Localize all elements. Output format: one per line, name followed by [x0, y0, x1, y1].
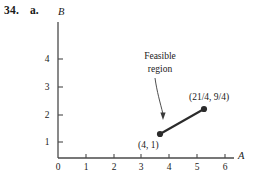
data-point-4-1	[157, 131, 163, 137]
annotation-arrow-shaft	[155, 78, 163, 114]
figure-container: 34. a. B A 0 1 2 3 4 5 6 1 2 3 4 Feasibl…	[0, 0, 260, 185]
annotation-arrow-head	[160, 113, 165, 120]
data-point-21over4-9over4	[201, 106, 207, 112]
feasible-segment-line	[160, 109, 204, 134]
plot-area	[0, 0, 260, 185]
